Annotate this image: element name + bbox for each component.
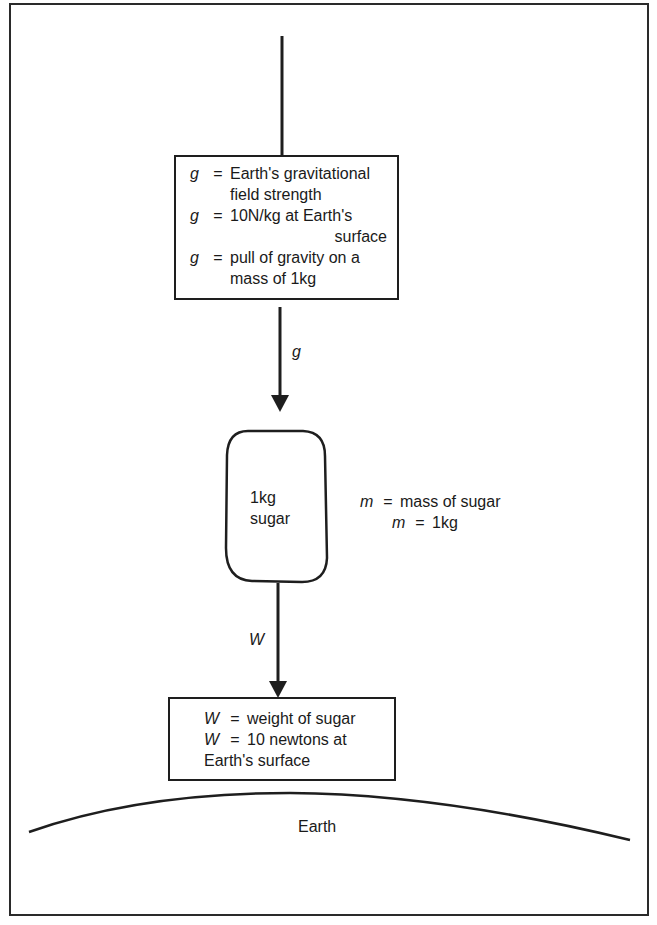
earth-label: Earth: [298, 818, 336, 836]
definition-continuation: field strength: [190, 184, 397, 205]
symbol-m: m: [360, 491, 376, 512]
symbol-g: g: [190, 205, 206, 226]
symbol-g: g: [190, 247, 206, 268]
equals-sign: =: [223, 708, 247, 729]
equals-sign: =: [376, 491, 400, 512]
equals-sign: =: [206, 205, 230, 226]
mass-value-row: m = 1kg: [360, 512, 500, 533]
equals-sign: =: [408, 512, 432, 533]
definition-row: g = pull of gravity on a: [190, 247, 397, 268]
sugar-bag-contents: sugar: [250, 508, 290, 529]
mass-value-text: 1kg: [432, 512, 458, 533]
arrow-down-icon: [269, 583, 287, 698]
diagram-lines: [0, 0, 657, 925]
symbol-g: g: [190, 163, 206, 184]
weight-value-row: W = 10 newtons at: [204, 729, 394, 750]
mass-definition-text: mass of sugar: [400, 491, 500, 512]
gravitational-field-box: g = Earth's gravitational field strength…: [174, 155, 399, 300]
definition-continuation: surface: [190, 226, 387, 247]
definition-row: g = Earth's gravitational: [190, 163, 397, 184]
mass-definition-row: m = mass of sugar: [360, 491, 500, 512]
definition-text: Earth's gravitational: [230, 163, 370, 184]
arrow-down-icon: [271, 307, 289, 412]
weight-box: W = weight of sugar W = 10 newtons at Ea…: [168, 697, 396, 781]
symbol-w: W: [204, 708, 223, 729]
equals-sign: =: [223, 729, 247, 750]
weight-value-continuation: Earth's surface: [204, 750, 394, 771]
symbol-m: m: [392, 512, 408, 533]
definition-row: g = 10N/kg at Earth's: [190, 205, 397, 226]
definition-continuation: mass of 1kg: [190, 268, 397, 289]
weight-value-text: 10 newtons at: [247, 729, 347, 750]
weight-definition-row: W = weight of sugar: [204, 708, 394, 729]
sugar-bag-label: 1kg sugar: [250, 487, 290, 529]
arrow-w-label: W: [249, 631, 264, 649]
equals-sign: =: [206, 163, 230, 184]
definition-text: 10N/kg at Earth's: [230, 205, 352, 226]
sugar-bag-mass: 1kg: [250, 487, 290, 508]
weight-definition-text: weight of sugar: [247, 708, 356, 729]
arrow-g-label: g: [292, 343, 301, 361]
equals-sign: =: [206, 247, 230, 268]
symbol-w: W: [204, 729, 223, 750]
mass-note: m = mass of sugar m = 1kg: [360, 491, 500, 533]
definition-text: pull of gravity on a: [230, 247, 360, 268]
